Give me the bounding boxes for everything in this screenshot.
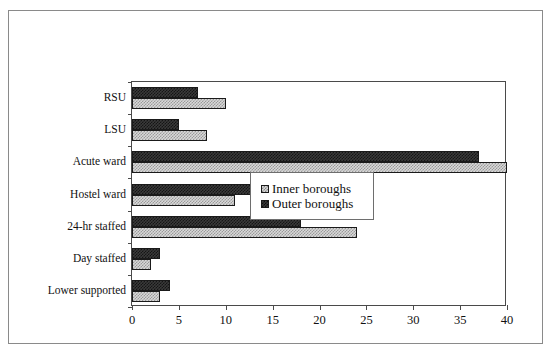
y-axis-category-label: Acute ward — [73, 157, 126, 169]
bar-outer-boroughs — [132, 280, 170, 291]
legend-item-inner-boroughs: Inner boroughs — [261, 182, 365, 195]
x-axis-tick-label: 15 — [266, 313, 279, 328]
bar-inner-boroughs — [132, 291, 160, 302]
x-axis-tick — [273, 305, 274, 310]
y-axis-tick — [128, 243, 132, 244]
y-axis-category-label: RSU — [104, 92, 126, 104]
x-axis-tick-label: 30 — [407, 313, 420, 328]
x-axis-tick-label: 0 — [129, 313, 135, 328]
x-axis-tick — [179, 305, 180, 310]
x-axis-tick-label: 40 — [501, 313, 514, 328]
y-axis-category-label: Lower supported — [48, 285, 126, 297]
legend-label-outer-boroughs: Outer boroughs — [272, 197, 353, 210]
x-axis-tick — [320, 305, 321, 310]
y-axis-category-label: Hostel ward — [70, 189, 126, 201]
y-axis-category-label: LSU — [104, 124, 126, 136]
y-axis-category-label: 24-hr staffed — [67, 221, 126, 233]
bar-inner-boroughs — [132, 195, 235, 206]
bar-inner-boroughs — [132, 259, 151, 270]
legend-item-outer-boroughs: Outer boroughs — [261, 197, 365, 210]
x-axis-tick — [366, 305, 367, 310]
x-axis-tick — [413, 305, 414, 310]
figure-outer-frame: RSULSUAcute wardHostel ward24-hr staffed… — [8, 10, 543, 344]
bar-inner-boroughs — [132, 227, 357, 238]
y-axis-tick — [128, 114, 132, 115]
bar-outer-boroughs — [132, 151, 479, 162]
x-axis-tick-label: 5 — [176, 313, 182, 328]
bar-outer-boroughs — [132, 87, 198, 98]
bar-inner-boroughs — [132, 98, 226, 109]
chart-legend: Inner boroughs Outer boroughs — [250, 172, 374, 220]
scan-artifact-top-text — [0, 0, 552, 9]
x-axis-tick — [132, 305, 133, 310]
x-axis-tick-label: 25 — [360, 313, 373, 328]
bar-outer-boroughs — [132, 248, 160, 259]
y-axis-tick — [128, 178, 132, 179]
bar-outer-boroughs — [132, 119, 179, 130]
x-axis-tick-label: 20 — [313, 313, 326, 328]
legend-label-inner-boroughs: Inner boroughs — [272, 182, 351, 195]
legend-swatch-inner-boroughs — [261, 185, 269, 193]
x-axis-tick-label: 10 — [220, 313, 233, 328]
y-axis-tick — [128, 211, 132, 212]
bar-inner-boroughs — [132, 130, 207, 141]
y-axis-tick — [128, 82, 132, 83]
y-axis-tick — [128, 275, 132, 276]
x-axis-tick — [460, 305, 461, 310]
y-axis-category-label: Day staffed — [73, 253, 126, 265]
y-axis-tick — [128, 146, 132, 147]
legend-swatch-outer-boroughs — [261, 200, 269, 208]
x-axis-tick — [507, 305, 508, 310]
x-axis-tick-label: 35 — [454, 313, 467, 328]
x-axis-tick — [226, 305, 227, 310]
